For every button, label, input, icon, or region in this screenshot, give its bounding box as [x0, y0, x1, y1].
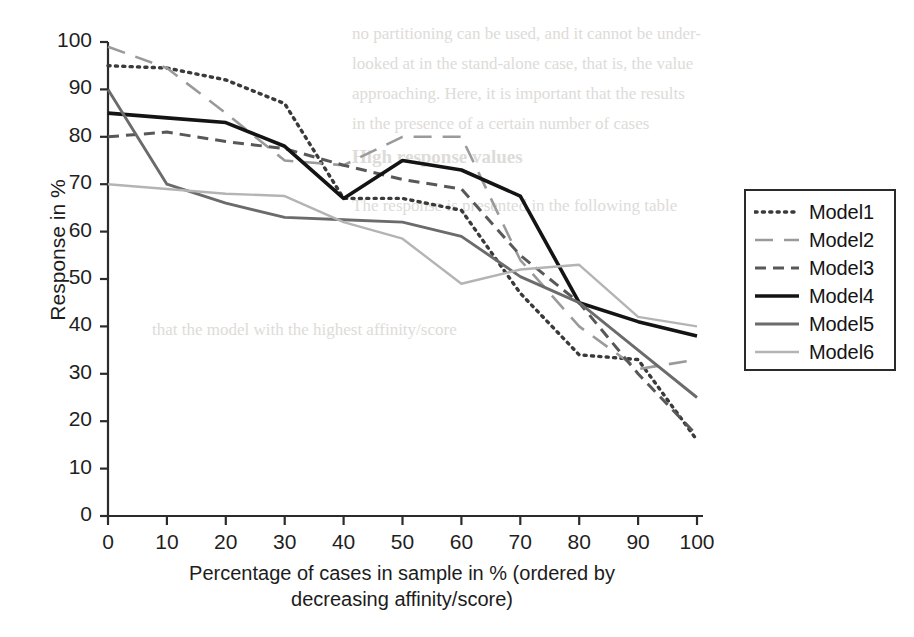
x-tick-label: 70	[494, 530, 546, 554]
legend-swatch-model1	[754, 205, 800, 219]
legend-item-model2: Model2	[746, 226, 894, 254]
y-tick-label: 0	[46, 502, 92, 526]
x-axis-title-line2: decreasing affinity/score)	[291, 588, 513, 610]
legend-label: Model3	[809, 257, 874, 280]
x-tick-label: 50	[377, 530, 429, 554]
legend-label: Model1	[809, 201, 874, 224]
legend-label: Model2	[809, 229, 874, 252]
series-line-model3	[108, 132, 697, 435]
x-tick-label: 80	[553, 530, 605, 554]
legend-swatch-model3	[754, 261, 800, 275]
x-axis-title: Percentage of cases in sample in % (orde…	[92, 560, 712, 613]
y-tick-label: 10	[46, 455, 92, 479]
x-tick-label: 40	[318, 530, 370, 554]
legend-item-model6: Model6	[746, 338, 894, 366]
x-axis-title-line1: Percentage of cases in sample in % (orde…	[189, 562, 615, 584]
y-tick-label: 90	[46, 75, 92, 99]
legend-swatch-model5	[754, 317, 800, 331]
series-line-model6	[108, 184, 697, 326]
x-tick-label: 0	[82, 530, 134, 554]
chart-figure: no partitioning can be used, and it cann…	[0, 0, 914, 637]
x-tick-label: 60	[435, 530, 487, 554]
x-tick-label: 90	[612, 530, 664, 554]
data-series-group	[108, 47, 697, 440]
legend-label: Model4	[809, 285, 874, 308]
legend-item-model1: Model1	[746, 198, 894, 226]
series-line-model4	[108, 113, 697, 336]
y-tick-label: 100	[46, 28, 92, 52]
x-tick-label: 30	[259, 530, 311, 554]
x-tick-label: 10	[141, 530, 193, 554]
y-axis-title: Response in %	[46, 130, 70, 370]
legend-item-model5: Model5	[746, 310, 894, 338]
x-tick-label: 20	[200, 530, 252, 554]
axes	[100, 42, 703, 525]
chart-legend: Model1Model2Model3Model4Model5Model6	[744, 189, 896, 371]
legend-label: Model6	[809, 341, 874, 364]
legend-label: Model5	[809, 313, 874, 336]
legend-swatch-model6	[754, 345, 800, 359]
series-line-model2	[108, 47, 697, 369]
legend-item-model4: Model4	[746, 282, 894, 310]
legend-swatch-model4	[754, 289, 800, 303]
legend-item-model3: Model3	[746, 254, 894, 282]
y-tick-label: 20	[46, 407, 92, 431]
x-tick-label: 100	[671, 530, 723, 554]
legend-swatch-model2	[754, 233, 800, 247]
